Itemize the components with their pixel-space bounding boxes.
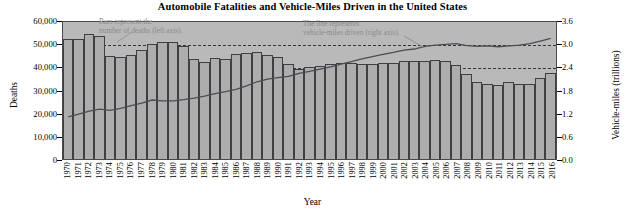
bar [241,53,251,159]
y-axis-left-tick-label: 50,000 [0,39,57,49]
x-axis-label-cell: 1993 [304,161,315,195]
bar-cell [210,22,220,159]
bar [493,85,503,159]
x-axis-tick-label: 2008 [463,162,472,179]
x-axis-tick-label: 2011 [495,162,504,178]
x-axis-tick-label: 1988 [252,162,261,179]
bar-cell [199,22,209,159]
y-axis-left-tick-label: 0 [0,155,57,165]
bar-cell [388,22,398,159]
bar-cell [409,22,419,159]
bar [430,60,440,159]
x-axis-label-cell: 2012 [504,161,515,195]
bar-cell [440,22,450,159]
x-axis-tick-label: 2005 [431,162,440,179]
x-axis-label-cell: 1990 [273,161,284,195]
y-axis-right-tick-label: 1.2 [562,109,602,119]
bar-cell [189,22,199,159]
x-axis-label-cell: 1979 [157,161,168,195]
bar [126,55,136,159]
x-axis-tick-label: 2001 [389,162,398,179]
y-axis-right-tick-mark [557,114,562,115]
bar [524,84,534,159]
x-axis-label-cell: 1977 [136,161,147,195]
bar-cell [461,22,471,159]
x-axis-tick-label: 2009 [473,162,482,179]
x-axis-tick-label: 2004 [421,162,430,179]
bar-cell [524,22,534,159]
bar [168,42,178,159]
x-axis-label-cell: 1984 [209,161,220,195]
x-axis-tick-label: 1982 [189,162,198,179]
x-axis-tick-label: 1991 [284,162,293,179]
x-axis-label-cell: 2009 [473,161,484,195]
bar-cell [451,22,461,159]
x-axis-label-cell: 2006 [441,161,452,195]
bar [388,63,398,159]
x-axis-tick-label: 1992 [294,162,303,179]
x-axis-tick-label: 1996 [337,162,346,179]
x-axis-label-cell: 2016 [546,161,557,195]
bar [252,52,262,160]
bar-cell [294,22,304,159]
bar [336,63,346,159]
bar-cell [94,22,104,159]
x-axis-label-cell: 2002 [399,161,410,195]
y-axis-right-tick-label: 3.0 [562,39,602,49]
bar-cell [157,22,167,159]
y-axis-right-tick-mark [557,91,562,92]
x-axis-tick-label: 1980 [168,162,177,179]
bar [147,44,157,159]
x-axis-label-cell: 1973 [94,161,105,195]
x-axis-label-cell: 2007 [452,161,463,195]
bar [210,58,220,159]
bar-cell [231,22,241,159]
bar-cell [220,22,230,159]
bar-cell [241,22,251,159]
bar-cell [503,22,513,159]
bar [157,42,167,159]
x-axis-tick-label: 1979 [158,162,167,179]
bar [231,54,241,159]
x-axis-tick-label: 1973 [94,162,103,179]
bar [294,69,304,159]
bar-cell [378,22,388,159]
x-axis-tick-label: 2014 [526,162,535,179]
x-axis-tick-label: 1971 [73,162,82,179]
bar-cell [63,22,73,159]
bar [304,67,314,159]
x-axis-tick-label: 1994 [316,162,325,179]
x-axis-tick-label: 1972 [84,162,93,179]
y-axis-right-tick-label: 1.8 [562,86,602,96]
y-axis-right-tick-mark [557,160,562,161]
bar [419,61,429,159]
x-axis-label-cell: 2001 [388,161,399,195]
x-axis-label-cell: 1995 [325,161,336,195]
x-axis-label-cell: 2011 [494,161,505,195]
x-axis-label-cell: 1996 [336,161,347,195]
x-axis-tick-label: 2000 [379,162,388,179]
x-axis-label-cell: 1978 [146,161,157,195]
x-axis-tick-label: 1987 [242,162,251,179]
bar [73,39,83,159]
bar [63,39,73,159]
x-axis-label-cell: 1971 [73,161,84,195]
x-axis-tick-label: 1970 [63,162,72,179]
x-axis-label-cell: 1982 [188,161,199,195]
bar [367,64,377,159]
bar-series [63,22,556,159]
y-axis-right-tick-mark [557,44,562,45]
bar [105,56,115,159]
y-axis-right-tick-mark [557,21,562,22]
x-axis-tick-label: 2002 [400,162,409,179]
x-axis-tick-label: 2003 [410,162,419,179]
x-axis-label-cell: 1986 [231,161,242,195]
x-axis-tick-label: 1997 [347,162,356,179]
y-axis-right-tick-mark [557,67,562,68]
bar-cell [482,22,492,159]
bar [283,64,293,159]
x-axis-label-cell: 1975 [115,161,126,195]
bar [440,61,450,159]
x-axis-label-cell: 2010 [483,161,494,195]
bar [461,74,471,159]
